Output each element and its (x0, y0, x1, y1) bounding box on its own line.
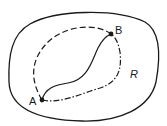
point-b-marker (109, 32, 114, 37)
region-label: R (130, 68, 138, 80)
point-a-label: A (29, 95, 37, 107)
path-upper-dashed (34, 27, 111, 100)
point-a-marker (40, 98, 45, 103)
path-lower-dashdot (42, 34, 120, 101)
path-middle-solid (42, 34, 111, 100)
diagram-canvas: A B R (0, 0, 167, 126)
point-b-label: B (115, 24, 122, 36)
